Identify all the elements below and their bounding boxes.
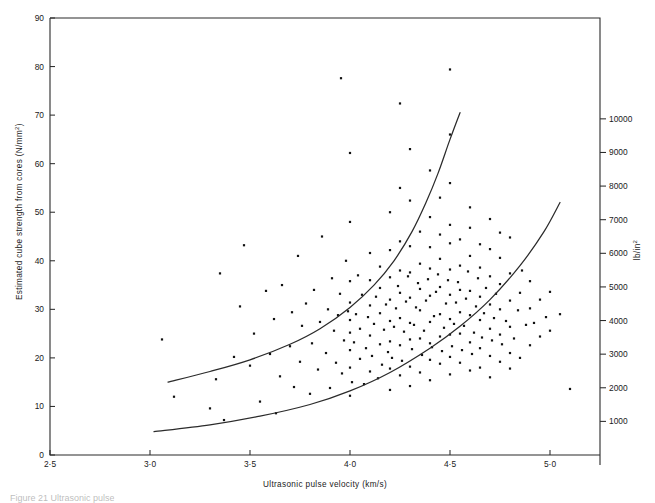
data-point <box>499 283 501 285</box>
data-point <box>417 282 419 284</box>
data-point <box>439 258 441 260</box>
data-point <box>335 362 337 364</box>
lower-envelope-curve <box>154 203 560 432</box>
data-point <box>439 313 441 315</box>
data-point <box>409 338 411 340</box>
y2-tick-label: 4000 <box>609 316 628 326</box>
data-point <box>499 232 501 234</box>
data-point <box>457 281 459 283</box>
data-point <box>369 370 371 372</box>
data-point <box>425 299 427 301</box>
data-point <box>485 287 487 289</box>
scatter-plot: 0102030405060708090 10002000300040005000… <box>0 0 655 503</box>
data-point <box>319 321 321 323</box>
data-point <box>419 288 421 290</box>
data-point <box>493 317 495 319</box>
data-point <box>403 331 405 333</box>
data-point <box>371 355 373 357</box>
data-point <box>459 311 461 313</box>
data-point <box>331 277 333 279</box>
y-tick-label: 40 <box>35 256 45 266</box>
data-point <box>539 299 541 301</box>
data-point <box>419 337 421 339</box>
data-point <box>525 324 527 326</box>
data-point <box>449 373 451 375</box>
data-point <box>233 356 235 358</box>
data-point <box>429 246 431 248</box>
data-point <box>389 367 391 369</box>
data-point <box>369 252 371 254</box>
data-point <box>449 224 451 226</box>
data-point <box>427 278 429 280</box>
data-point <box>389 211 391 213</box>
data-point <box>299 361 301 363</box>
y-tick-label: 50 <box>35 207 45 217</box>
data-point <box>379 287 381 289</box>
y-tick-label: 30 <box>35 304 45 314</box>
data-point <box>539 335 541 337</box>
data-point <box>239 305 241 307</box>
data-point <box>399 344 401 346</box>
data-point <box>479 266 481 268</box>
data-point <box>215 378 217 380</box>
data-point <box>489 303 491 305</box>
data-point <box>301 325 303 327</box>
data-point <box>469 290 471 292</box>
data-point <box>465 298 467 300</box>
data-point <box>491 339 493 341</box>
data-point <box>455 301 457 303</box>
data-point <box>405 300 407 302</box>
data-point <box>449 318 451 320</box>
data-point <box>529 344 531 346</box>
data-point <box>483 312 485 314</box>
data-point <box>409 199 411 201</box>
data-point <box>509 236 511 238</box>
y2-tick-label: 7000 <box>609 215 628 225</box>
data-point <box>349 395 351 397</box>
data-point <box>489 328 491 330</box>
data-point <box>479 296 481 298</box>
data-point <box>429 295 431 297</box>
data-point <box>369 304 371 306</box>
data-point <box>209 407 211 409</box>
data-point <box>501 343 503 345</box>
data-point <box>265 290 267 292</box>
data-point <box>469 341 471 343</box>
data-point <box>317 368 319 370</box>
y-tick-label: 80 <box>35 62 45 72</box>
data-point <box>469 206 471 208</box>
data-point <box>449 294 451 296</box>
y2-tick-label: 10000 <box>609 114 633 124</box>
data-point <box>341 372 343 374</box>
x-axis-tick-labels: 2·53·03·54·04·55·0 <box>44 459 556 469</box>
data-point <box>219 272 221 274</box>
data-point <box>411 348 413 350</box>
data-point <box>489 355 491 357</box>
data-point <box>489 376 491 378</box>
data-point <box>439 286 441 288</box>
data-point <box>471 353 473 355</box>
data-point <box>389 249 391 251</box>
upper-envelope-curve <box>168 113 460 382</box>
data-point <box>499 361 501 363</box>
data-point <box>389 299 391 301</box>
data-point <box>499 308 501 310</box>
data-point <box>449 182 451 184</box>
data-point <box>393 326 395 328</box>
data-point <box>469 314 471 316</box>
data-point <box>379 266 381 268</box>
data-point <box>333 330 335 332</box>
data-point <box>545 316 547 318</box>
data-point <box>389 276 391 278</box>
data-point <box>321 235 323 237</box>
data-point <box>349 301 351 303</box>
data-point <box>533 322 535 324</box>
data-point <box>459 265 461 267</box>
data-point <box>499 257 501 259</box>
data-point <box>463 325 465 327</box>
data-point <box>559 313 561 315</box>
data-point <box>409 148 411 150</box>
y-tick-label: 20 <box>35 353 45 363</box>
data-point <box>489 218 491 220</box>
data-point <box>439 363 441 365</box>
